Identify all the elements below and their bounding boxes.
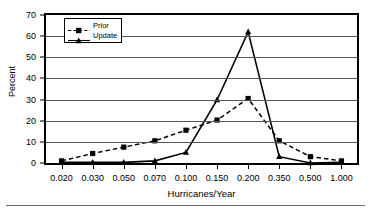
y-tick-label-50: 50 <box>26 53 36 62</box>
y-tick-label-0: 0 <box>31 159 36 168</box>
y-axis-title: Percent <box>8 47 17 117</box>
data-point-update-7 <box>276 153 282 159</box>
y-tick-label-20: 20 <box>26 116 36 125</box>
x-tick-mark-1 <box>93 165 94 169</box>
x-tick-label-6: 0.200 <box>237 173 260 183</box>
x-tick-label-9: 1.000 <box>330 173 353 183</box>
legend-swatch-triangle-solid-icon <box>68 31 90 40</box>
y-tick-label-30: 30 <box>26 95 36 104</box>
legend-item-update: Update <box>68 31 117 40</box>
gridline-20 <box>46 121 357 122</box>
gridline-40 <box>46 78 357 79</box>
x-tick-label-2: 0.050 <box>112 173 135 183</box>
x-axis: 0.0200.0300.0500.0700.1000.1500.2000.350… <box>44 165 359 189</box>
x-tick-mark-4 <box>186 165 187 169</box>
x-tick-mark-6 <box>248 165 249 169</box>
figure: Percent 010203040506070 0.0200.0300.0500… <box>0 0 371 214</box>
series-prior <box>59 96 344 164</box>
data-point-prior-2 <box>121 145 126 150</box>
y-tick-label-70: 70 <box>26 11 36 20</box>
series-line-prior <box>62 99 342 161</box>
x-tick-label-1: 0.030 <box>81 173 104 183</box>
x-axis-title: Hurricanes/Year <box>44 188 359 199</box>
legend-swatch-square-dashed-icon <box>68 21 90 30</box>
y-tick-label-60: 60 <box>26 32 36 41</box>
x-tick-label-5: 0.150 <box>206 173 229 183</box>
data-point-prior-8 <box>308 154 313 159</box>
x-tick-mark-5 <box>217 165 218 169</box>
series-update <box>58 28 344 165</box>
x-tick-mark-8 <box>310 165 311 169</box>
y-tick-label-40: 40 <box>26 74 36 83</box>
x-tick-mark-3 <box>155 165 156 169</box>
y-tick-label-10: 10 <box>26 137 36 146</box>
x-tick-label-3: 0.070 <box>144 173 167 183</box>
x-tick-label-4: 0.100 <box>175 173 198 183</box>
series-line-update <box>62 32 342 163</box>
x-tick-mark-7 <box>279 165 280 169</box>
legend-item-prior: Prior <box>68 21 117 30</box>
x-tick-mark-0 <box>62 165 63 169</box>
x-tick-mark-9 <box>341 165 342 169</box>
legend: Prior Update <box>64 18 122 43</box>
gridline-10 <box>46 142 357 143</box>
gridline-30 <box>46 100 357 101</box>
legend-label-update: Update <box>93 31 117 40</box>
data-point-prior-1 <box>90 151 95 156</box>
x-tick-label-0: 0.020 <box>50 173 73 183</box>
legend-label-prior: Prior <box>93 21 109 30</box>
data-point-update-6 <box>245 28 251 34</box>
x-tick-label-8: 0.500 <box>299 173 322 183</box>
x-tick-mark-2 <box>124 165 125 169</box>
y-axis: Percent 010203040506070 <box>0 13 44 165</box>
footer-divider <box>6 205 365 206</box>
gridline-50 <box>46 57 357 58</box>
data-point-prior-4 <box>183 128 188 133</box>
x-tick-label-7: 0.350 <box>268 173 291 183</box>
